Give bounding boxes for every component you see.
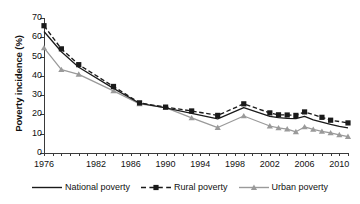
data-point — [215, 113, 220, 118]
x-tick — [252, 153, 253, 156]
data-point — [111, 84, 116, 89]
data-point — [276, 112, 281, 117]
x-tick — [61, 153, 62, 156]
x-tick — [53, 153, 54, 156]
x-tick — [209, 153, 210, 156]
plot-area: 010203040506070 197619821986199019941998… — [44, 18, 348, 153]
legend-label: Urban poverty — [272, 182, 329, 192]
x-tick — [148, 153, 149, 156]
x-tick-label: 1990 — [149, 159, 183, 169]
y-tick-label: 40 — [20, 71, 42, 80]
data-point — [59, 46, 64, 51]
x-tick-label: 1994 — [183, 159, 217, 169]
x-tick — [79, 153, 80, 156]
x-tick — [226, 153, 227, 156]
x-tick — [270, 153, 271, 156]
x-tick-label: 2010 — [322, 159, 356, 169]
data-point — [241, 101, 246, 106]
x-tick — [44, 153, 45, 156]
x-tick — [218, 153, 219, 156]
y-tick-label: 70 — [20, 13, 42, 22]
chart-legend: National povertyRural povertyUrban pover… — [0, 182, 360, 192]
series-rural-poverty — [41, 23, 350, 125]
x-tick — [122, 153, 123, 156]
y-tick-label: 50 — [20, 52, 42, 61]
x-tick-label: 2002 — [253, 159, 287, 169]
y-tick-label: 20 — [20, 109, 42, 118]
x-axis-line — [44, 153, 348, 154]
x-tick — [322, 153, 323, 156]
data-point — [328, 118, 333, 123]
y-tick-label: 30 — [20, 90, 42, 99]
y-tick-label: 60 — [20, 32, 42, 41]
x-tick-label: 1982 — [79, 159, 113, 169]
x-tick — [287, 153, 288, 156]
x-tick — [70, 153, 71, 156]
legend-item-urban-poverty[interactable]: Urban poverty — [239, 182, 329, 192]
series-layer — [44, 18, 348, 153]
y-tick-label: 0 — [20, 148, 42, 157]
data-point — [285, 112, 290, 117]
x-tick — [305, 153, 306, 156]
data-point — [76, 62, 81, 67]
legend-item-national-poverty[interactable]: National poverty — [32, 182, 130, 192]
x-tick — [339, 153, 340, 156]
legend-item-rural-poverty[interactable]: Rural poverty — [141, 182, 228, 192]
x-tick — [261, 153, 262, 156]
x-tick-label: 1998 — [218, 159, 252, 169]
x-tick — [279, 153, 280, 156]
x-tick — [348, 153, 349, 156]
x-tick — [96, 153, 97, 156]
x-tick — [105, 153, 106, 156]
x-tick — [87, 153, 88, 156]
legend-label: National poverty — [65, 182, 130, 192]
dashed-square-key-icon — [141, 183, 171, 192]
x-tick — [157, 153, 158, 156]
poverty-incidence-chart: Poverty incidence (%) 010203040506070 19… — [0, 0, 360, 204]
data-point — [189, 108, 194, 113]
series-urban-poverty — [41, 45, 351, 139]
x-tick — [296, 153, 297, 156]
x-tick-label: 2006 — [288, 159, 322, 169]
x-tick — [113, 153, 114, 156]
data-point — [241, 113, 247, 118]
x-tick — [131, 153, 132, 156]
data-point — [163, 105, 168, 110]
data-point — [345, 120, 350, 125]
x-tick — [140, 153, 141, 156]
x-tick — [166, 153, 167, 156]
x-tick — [313, 153, 314, 156]
x-tick — [192, 153, 193, 156]
data-point — [267, 110, 272, 115]
data-point — [41, 23, 46, 28]
gray-triangle-key-icon — [239, 183, 269, 192]
data-point — [302, 109, 307, 114]
y-tick-label: 10 — [20, 129, 42, 138]
x-tick — [235, 153, 236, 156]
data-point — [293, 113, 298, 118]
x-tick — [183, 153, 184, 156]
x-tick — [331, 153, 332, 156]
data-point — [41, 45, 47, 50]
x-tick-label: 1986 — [114, 159, 148, 169]
data-point — [319, 115, 324, 120]
x-tick-label: 1976 — [27, 159, 61, 169]
data-point — [137, 100, 142, 105]
legend-label: Rural poverty — [174, 182, 228, 192]
solid-line-key-icon — [32, 183, 62, 192]
x-tick — [244, 153, 245, 156]
data-point — [301, 124, 307, 129]
x-tick — [200, 153, 201, 156]
x-tick — [174, 153, 175, 156]
